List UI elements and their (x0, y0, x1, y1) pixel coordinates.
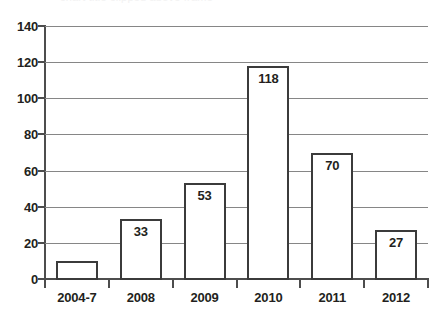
x-axis-tick (236, 280, 238, 288)
x-axis-tick (172, 280, 174, 288)
x-axis-tick (44, 280, 46, 288)
x-axis-tick (363, 280, 365, 288)
bar[interactable] (56, 261, 98, 280)
gridline (45, 243, 428, 244)
bar-value-label: 27 (377, 235, 415, 250)
bar-chart: chart title clipped above frame 33531187… (0, 0, 442, 316)
y-axis-tick (38, 133, 45, 135)
y-axis-tick-label: 100 (2, 91, 38, 106)
clipped-title-text: chart title clipped above frame (60, 0, 213, 3)
y-axis-tick-label: 80 (2, 127, 38, 142)
bar-value-label: 118 (249, 71, 287, 86)
x-axis-tick (108, 280, 110, 288)
x-axis-category-label: 2012 (364, 290, 428, 305)
bar[interactable]: 33 (120, 219, 162, 280)
x-axis-tick (427, 280, 429, 288)
gridline (45, 171, 428, 172)
gridline (45, 26, 428, 27)
gridline (45, 62, 428, 63)
y-axis-tick-label: 20 (2, 235, 38, 250)
bar[interactable]: 118 (247, 66, 289, 280)
x-axis-category-label: 2011 (300, 290, 364, 305)
bar-value-label: 70 (313, 158, 351, 173)
y-axis-tick (38, 206, 45, 208)
bar-value-label: 53 (186, 188, 224, 203)
y-axis-tick (38, 97, 45, 99)
gridline (45, 207, 428, 208)
bar-value-label: 33 (122, 224, 160, 239)
y-axis-tick (38, 170, 45, 172)
y-axis-tick-label: 120 (2, 55, 38, 70)
x-axis-category-label: 2008 (109, 290, 173, 305)
x-axis-category-label: 2004-7 (45, 290, 109, 305)
clipped-title-artifact: chart title clipped above frame (0, 0, 442, 13)
x-axis-tick (299, 280, 301, 288)
bar[interactable]: 70 (311, 153, 353, 281)
x-axis-category-label: 2010 (237, 290, 301, 305)
gridline (45, 134, 428, 135)
x-axis-category-label: 2009 (173, 290, 237, 305)
gridline (45, 98, 428, 99)
y-axis-tick (38, 25, 45, 27)
plot-area: 33531187027 (45, 26, 428, 279)
bar[interactable]: 53 (184, 183, 226, 280)
y-axis-tick-label: 0 (2, 272, 38, 287)
y-axis-tick-label: 60 (2, 163, 38, 178)
y-axis-tick (38, 61, 45, 63)
y-axis-tick (38, 242, 45, 244)
y-axis-tick-label: 140 (2, 19, 38, 34)
bar[interactable]: 27 (375, 230, 417, 280)
y-axis-tick-label: 40 (2, 199, 38, 214)
